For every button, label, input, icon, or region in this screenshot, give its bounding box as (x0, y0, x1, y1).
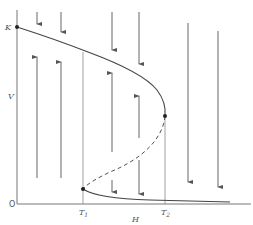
upper-turning-point (163, 114, 167, 118)
origin-label: O (9, 200, 15, 209)
lower-turning-point (81, 187, 85, 191)
t1-label: T1 (79, 208, 88, 218)
k-label: K (4, 23, 12, 32)
unstable-branch (83, 116, 165, 189)
k-point (15, 25, 19, 29)
upper-stable-branch (17, 27, 165, 116)
h-axis-label: H (131, 215, 140, 224)
v-axis-label: V (8, 92, 15, 101)
phase-diagram: K V O T1 T2 H (0, 0, 253, 225)
t2-label: T2 (161, 208, 170, 218)
lower-stable-branch (83, 189, 230, 202)
